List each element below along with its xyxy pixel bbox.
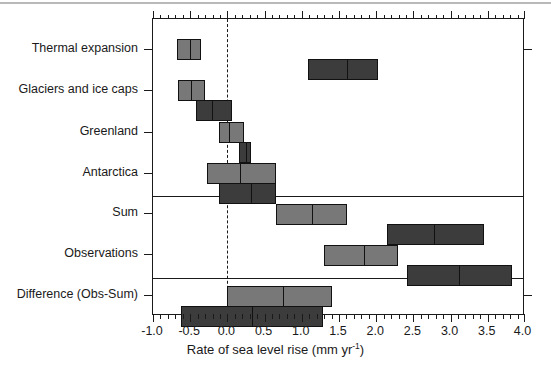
x-tick-top-minor	[242, 15, 243, 20]
x-tick-top-major-3.0	[451, 11, 452, 19]
x-tick-top-minor	[480, 15, 481, 20]
x-tick-minor	[324, 314, 325, 319]
y-label-observations: Observations	[64, 246, 138, 260]
x-tick-minor	[428, 314, 429, 319]
bar-midline	[212, 101, 213, 120]
x-tick-top-minor	[428, 15, 429, 20]
bar-antarctica-dark	[219, 183, 276, 204]
bar-midline	[283, 287, 284, 306]
bar-midline	[347, 60, 348, 79]
x-tick-label--1.0: -1.0	[141, 324, 163, 338]
x-tick-minor	[518, 314, 519, 319]
x-tick-top-minor	[175, 15, 176, 20]
bar-midline	[251, 184, 252, 203]
x-tick-minor	[168, 314, 169, 319]
x-axis-title-main: Rate of sea level rise (mm yr	[187, 342, 352, 357]
x-tick-major-1.0	[302, 314, 303, 322]
x-tick-top-minor	[235, 15, 236, 20]
bar-difference-obs-sum-light	[227, 286, 331, 307]
x-tick-top-major-3.5	[488, 11, 489, 19]
y-label-thermal-expansion: Thermal expansion	[32, 41, 138, 55]
x-tick-top-minor	[257, 15, 258, 20]
x-tick-major--1.0	[153, 314, 154, 322]
y-label-antarctica: Antarctica	[82, 165, 138, 179]
x-tick-minor	[384, 314, 385, 319]
x-tick-top-minor	[287, 15, 288, 20]
x-tick-top-major-2.0	[376, 11, 377, 19]
x-tick-top-minor	[205, 15, 206, 20]
x-tick-top-minor	[436, 15, 437, 20]
bar-sum-light	[276, 204, 347, 225]
x-tick-top-minor	[421, 15, 422, 20]
x-tick-label-3.5: 3.5	[478, 324, 495, 338]
x-tick-top-major-1.5	[339, 11, 340, 19]
bar-thermal-expansion-light	[177, 39, 202, 60]
x-tick-top-minor	[160, 15, 161, 20]
x-tick-top-minor	[332, 15, 333, 20]
bar-glaciers-and-ice-caps-dark	[196, 100, 232, 121]
x-tick-top-minor	[250, 15, 251, 20]
x-tick-minor	[257, 314, 258, 319]
x-tick-top-minor	[406, 15, 407, 20]
x-tick-minor	[294, 314, 295, 319]
x-tick-minor	[317, 314, 318, 319]
bar-midline	[252, 307, 253, 326]
x-tick-minor	[213, 314, 214, 319]
bar-midline	[459, 266, 460, 285]
x-tick-top-minor	[220, 15, 221, 20]
x-tick-minor	[272, 314, 273, 319]
x-tick-minor	[406, 314, 407, 319]
y-tick-difference-obs-sum	[144, 295, 153, 296]
x-tick-minor	[354, 314, 355, 319]
y-tick-thermal-expansion	[144, 49, 153, 50]
x-tick-top-minor	[361, 15, 362, 20]
x-axis-title-end: )	[360, 342, 364, 357]
x-tick-top-minor	[369, 15, 370, 20]
x-tick-top-minor	[213, 15, 214, 20]
x-tick-minor	[287, 314, 288, 319]
bar-midline	[246, 143, 247, 162]
x-tick-major-2.5	[413, 314, 414, 322]
x-tick-label-4.0: 4.0	[514, 324, 531, 338]
x-tick-minor	[160, 314, 161, 319]
x-tick-label-2.0: 2.0	[366, 324, 383, 338]
y-label-glaciers-and-ice-caps: Glaciers and ice caps	[18, 82, 138, 96]
bar-greenland-dark	[239, 142, 251, 163]
bar-midline	[312, 205, 313, 224]
bar-sum-dark	[387, 224, 484, 245]
x-tick-top-minor	[510, 15, 511, 20]
x-tick-top-minor	[183, 15, 184, 20]
bar-midline	[229, 123, 230, 142]
x-tick-major-0.0	[227, 314, 228, 322]
x-tick-top-major--1.0	[153, 11, 154, 19]
x-tick-label-1.5: 1.5	[329, 324, 346, 338]
x-tick-top-minor	[503, 15, 504, 20]
x-tick-label--0.5: -0.5	[178, 324, 200, 338]
x-tick-minor	[391, 314, 392, 319]
figure-root: Thermal expansion Glaciers and ice caps …	[0, 0, 551, 372]
y-tick-greenland	[144, 132, 153, 133]
x-tick-minor	[443, 314, 444, 319]
x-tick-top-minor	[384, 15, 385, 20]
group-separator-1	[153, 196, 523, 198]
x-tick-minor	[242, 314, 243, 319]
y-tick-glaciers-and-ice-caps	[144, 90, 153, 91]
x-tick-minor	[465, 314, 466, 319]
x-tick-minor	[503, 314, 504, 319]
x-tick-top-minor	[309, 15, 310, 20]
x-tick-label-3.0: 3.0	[441, 324, 458, 338]
x-axis-title-superscript: -1	[352, 341, 360, 351]
bar-glaciers-and-ice-caps-light	[178, 80, 206, 101]
x-tick-label-2.5: 2.5	[404, 324, 421, 338]
bar-midline	[434, 225, 435, 244]
x-tick-top-minor	[354, 15, 355, 20]
bar-midline	[190, 40, 191, 59]
x-tick-top-major-2.5	[413, 11, 414, 19]
x-tick-minor	[421, 314, 422, 319]
bar-greenland-light	[219, 122, 244, 143]
x-tick-minor	[369, 314, 370, 319]
bar-midline	[240, 164, 241, 183]
plot-area	[152, 18, 524, 315]
x-tick-top-minor	[272, 15, 273, 20]
x-tick-minor	[361, 314, 362, 319]
